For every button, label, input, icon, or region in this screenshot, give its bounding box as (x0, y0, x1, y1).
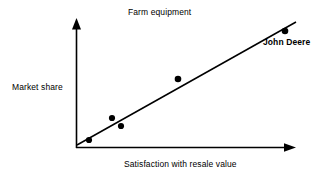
data-point-annotation-label: John Deere (263, 37, 310, 47)
y-axis-label: Market share (12, 82, 63, 92)
data-point (86, 137, 92, 143)
data-point (118, 123, 124, 129)
x-axis-arrowhead (284, 143, 296, 152)
data-point-john-deere (282, 28, 289, 35)
data-point (175, 76, 182, 83)
data-point (109, 115, 115, 121)
scatter-chart: Farm equipment Market share Satisfaction… (0, 0, 336, 177)
x-axis-label: Satisfaction with resale value (124, 159, 237, 169)
chart-title: Farm equipment (128, 7, 191, 17)
y-axis-arrowhead (72, 18, 81, 30)
